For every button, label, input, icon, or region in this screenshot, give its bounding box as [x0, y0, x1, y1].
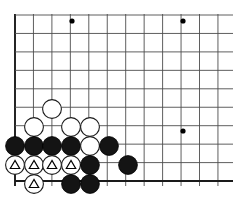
stone-disc-black — [25, 137, 44, 156]
white-stone[interactable] — [62, 156, 81, 175]
stone-disc-white — [62, 156, 81, 175]
black-stone[interactable] — [100, 137, 119, 156]
stone-disc-black — [81, 156, 100, 175]
stone-disc-black — [43, 137, 62, 156]
stone-disc-black — [81, 175, 100, 194]
stone-disc-white — [43, 100, 62, 119]
stone-disc-white — [43, 156, 62, 175]
white-stone[interactable] — [25, 156, 44, 175]
star-point-center-right — [180, 128, 185, 133]
star-point-top-left — [69, 18, 74, 23]
white-stone[interactable] — [62, 118, 81, 137]
go-board-diagram — [0, 0, 237, 201]
black-stone[interactable] — [81, 175, 100, 194]
star-point-top-right — [180, 18, 185, 23]
stone-disc-white — [81, 137, 100, 156]
stone-disc-white — [81, 118, 100, 137]
black-stone[interactable] — [6, 137, 25, 156]
white-stone[interactable] — [25, 118, 44, 137]
white-stone[interactable] — [81, 118, 100, 137]
stone-layer — [6, 100, 138, 194]
black-stone[interactable] — [119, 156, 138, 175]
stone-disc-black — [6, 137, 25, 156]
stone-disc-black — [62, 137, 81, 156]
star-points — [69, 18, 185, 133]
black-stone[interactable] — [81, 156, 100, 175]
black-stone[interactable] — [25, 137, 44, 156]
white-stone[interactable] — [43, 100, 62, 119]
stone-disc-white — [25, 175, 44, 194]
stone-disc-white — [62, 118, 81, 137]
stone-disc-black — [119, 156, 138, 175]
stone-disc-white — [25, 156, 44, 175]
black-stone[interactable] — [62, 137, 81, 156]
black-stone[interactable] — [62, 175, 81, 194]
stone-disc-white — [6, 156, 25, 175]
stone-disc-black — [100, 137, 119, 156]
white-stone[interactable] — [81, 137, 100, 156]
black-stone[interactable] — [43, 137, 62, 156]
stone-disc-black — [62, 175, 81, 194]
white-stone[interactable] — [43, 156, 62, 175]
goban-grid[interactable] — [0, 0, 237, 201]
white-stone[interactable] — [25, 175, 44, 194]
stone-disc-white — [25, 118, 44, 137]
white-stone[interactable] — [6, 156, 25, 175]
